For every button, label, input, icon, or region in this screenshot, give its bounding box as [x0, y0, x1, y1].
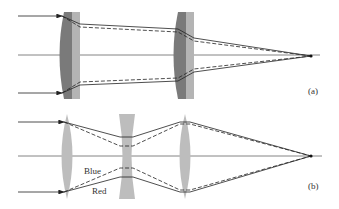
ray-label-red: Red — [92, 186, 107, 196]
panel-b-label: (b) — [308, 181, 319, 191]
focal-point-a — [309, 54, 312, 57]
doublet-lens-2 — [174, 12, 195, 99]
panel-b: Blue Red (b) — [18, 114, 322, 199]
panel-a-label: (a) — [308, 86, 318, 96]
converging-lens-1 — [62, 114, 73, 199]
converging-lens-2 — [180, 114, 191, 199]
ray-label-blue: Blue — [84, 166, 101, 176]
diverging-lens — [119, 114, 135, 199]
focal-point-b — [309, 154, 312, 157]
panel-a: (a) — [18, 12, 320, 99]
optics-diagram: (a) Blue Red (b) — [0, 0, 339, 209]
